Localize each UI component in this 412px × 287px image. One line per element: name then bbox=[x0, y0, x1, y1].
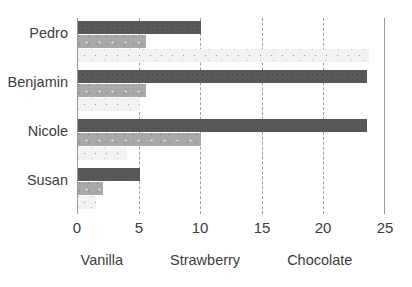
category-label-benjamin: Benjamin bbox=[0, 74, 68, 90]
x-tick-label-25: 25 bbox=[365, 219, 405, 236]
category-label-nicole: Nicole bbox=[0, 123, 68, 139]
bar-susan-strawberry[interactable] bbox=[78, 182, 103, 195]
bar-benjamin-strawberry[interactable] bbox=[78, 84, 146, 97]
chart-legend: Vanilla Strawberry Chocolate bbox=[0, 252, 412, 268]
category-label-pedro: Pedro bbox=[0, 25, 68, 41]
legend-item-vanilla[interactable]: Vanilla bbox=[60, 252, 123, 268]
x-tick-label-5: 5 bbox=[119, 219, 159, 236]
bar-chart: Pedro Benjamin Nicole Susan bbox=[0, 0, 412, 287]
legend-label-strawberry: Strawberry bbox=[170, 252, 240, 268]
x-tick-label-0: 0 bbox=[57, 219, 97, 236]
legend-swatch-strawberry-icon bbox=[149, 254, 163, 267]
bar-pedro-strawberry[interactable] bbox=[78, 35, 146, 48]
legend-swatch-chocolate-icon bbox=[266, 254, 280, 267]
bar-benjamin-chocolate[interactable] bbox=[78, 70, 367, 83]
bar-susan-vanilla[interactable] bbox=[78, 196, 96, 209]
category-label-susan: Susan bbox=[0, 172, 68, 188]
plot-area bbox=[77, 18, 385, 214]
bar-group-benjamin bbox=[78, 67, 385, 116]
bar-susan-chocolate[interactable] bbox=[78, 168, 140, 181]
legend-label-vanilla: Vanilla bbox=[81, 252, 123, 268]
bar-pedro-chocolate[interactable] bbox=[78, 21, 201, 34]
x-tick-label-10: 10 bbox=[180, 219, 220, 236]
x-tick-label-20: 20 bbox=[303, 219, 343, 236]
bar-pedro-vanilla[interactable] bbox=[78, 49, 369, 62]
bar-group-susan bbox=[78, 165, 385, 214]
bar-nicole-vanilla[interactable] bbox=[78, 147, 127, 160]
x-tick-label-15: 15 bbox=[242, 219, 282, 236]
chart-title bbox=[0, 0, 412, 1]
bar-benjamin-vanilla[interactable] bbox=[78, 98, 140, 111]
legend-item-strawberry[interactable]: Strawberry bbox=[149, 252, 240, 268]
bar-group-nicole bbox=[78, 116, 385, 165]
legend-label-chocolate: Chocolate bbox=[287, 252, 352, 268]
bar-nicole-strawberry[interactable] bbox=[78, 133, 201, 146]
bar-group-pedro bbox=[78, 18, 385, 67]
legend-swatch-vanilla-icon bbox=[60, 254, 74, 267]
bar-nicole-chocolate[interactable] bbox=[78, 119, 367, 132]
legend-item-chocolate[interactable]: Chocolate bbox=[266, 252, 352, 268]
